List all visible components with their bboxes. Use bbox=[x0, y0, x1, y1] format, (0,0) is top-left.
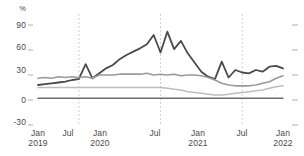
y-tick-label-30: 30 bbox=[2, 66, 26, 75]
x-tick-label-jan-2021: Jan 2021 bbox=[178, 128, 218, 148]
y-tick-label-60: 60 bbox=[2, 43, 26, 52]
x-tick-month: Jan bbox=[178, 128, 218, 138]
x-tick-year: 2022 bbox=[263, 138, 303, 148]
y-axis-unit-label: % bbox=[2, 4, 26, 13]
y-tick-label-minus30: -30 bbox=[2, 118, 26, 127]
x-tick-year: 2019 bbox=[18, 138, 58, 148]
x-tick-label-jul-2021: Jul bbox=[222, 128, 262, 138]
y-tick-label-0: 0 bbox=[2, 96, 26, 105]
x-tick-month: Jan bbox=[263, 128, 303, 138]
x-tick-label-jan-2022: Jan 2022 bbox=[263, 128, 303, 148]
x-tick-year: 2021 bbox=[178, 138, 218, 148]
x-tick-label-jul-2020: Jul bbox=[135, 128, 175, 138]
y-tick-label-90: 90 bbox=[2, 21, 26, 30]
x-tick-month: Jul bbox=[222, 128, 262, 138]
x-tick-month: Jan bbox=[80, 128, 120, 138]
x-tick-year: 2020 bbox=[80, 138, 120, 148]
x-tick-label-jan-2020: Jan 2020 bbox=[80, 128, 120, 148]
x-tick-month: Jul bbox=[135, 128, 175, 138]
chart-container: % 90 60 30 0 -30 Jan 2019 Jul Jan 2020 J… bbox=[0, 0, 304, 156]
